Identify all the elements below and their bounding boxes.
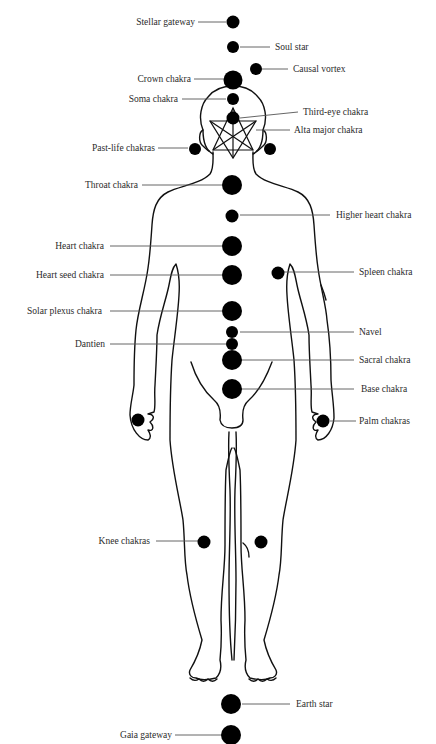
dot-palm-right — [317, 415, 330, 428]
label-causal-vortex: Causal vortex — [293, 63, 346, 75]
label-dantien: Dantien — [75, 338, 105, 350]
dot-palm-left — [132, 414, 145, 427]
dot-gaia-gateway — [221, 725, 241, 744]
dot-solar-plexus — [222, 301, 242, 321]
dot-causal-vortex — [250, 63, 262, 75]
dot-higher-heart — [226, 210, 239, 223]
label-solar-plexus-chakra: Solar plexus chakra — [27, 305, 102, 317]
label-alta-major-chakra: Alta major chakra — [294, 124, 363, 136]
label-sacral-chakra: Sacral chakra — [359, 354, 410, 366]
label-earth-star: Earth star — [296, 698, 333, 710]
dot-soma — [227, 93, 239, 105]
label-throat-chakra: Throat chakra — [85, 179, 138, 191]
label-third-eye-chakra: Third-eye chakra — [303, 106, 368, 118]
label-higher-heart-chakra: Higher heart chakra — [336, 209, 411, 221]
label-crown-chakra: Crown chakra — [137, 73, 191, 85]
label-soul-star: Soul star — [275, 41, 309, 53]
label-navel: Navel — [359, 326, 382, 338]
dot-past-life-left — [189, 143, 201, 155]
label-palm-chakras: Palm chakras — [359, 415, 410, 427]
label-spleen-chakra: Spleen chakra — [359, 266, 413, 278]
label-soma-chakra: Soma chakra — [129, 93, 178, 105]
label-heart-seed-chakra: Heart seed chakra — [36, 269, 104, 281]
dot-heart — [222, 236, 242, 256]
label-past-life-chakras: Past-life chakras — [92, 142, 155, 154]
dot-knee-left — [198, 536, 211, 549]
label-knee-chakras: Knee chakras — [99, 535, 150, 547]
dot-spleen — [272, 267, 285, 280]
label-heart-chakra: Heart chakra — [55, 240, 104, 252]
dot-dantien — [226, 338, 238, 350]
dot-base — [222, 379, 242, 399]
chakra-body-diagram — [0, 0, 436, 744]
dot-sacral — [222, 350, 242, 370]
dot-throat — [222, 175, 242, 195]
dot-heart-seed — [222, 265, 242, 285]
dot-crown — [224, 71, 243, 90]
dot-third-eye — [227, 112, 240, 125]
dot-soul-star — [227, 41, 239, 53]
label-gaia-gateway: Gaia gateway — [120, 729, 172, 741]
label-stellar-gateway: Stellar gateway — [136, 16, 195, 28]
dot-stellar-gateway — [227, 16, 240, 29]
label-base-chakra: Base chakra — [361, 383, 407, 395]
dot-earth-star — [221, 694, 241, 714]
dot-navel — [226, 326, 238, 338]
dot-past-life-right — [264, 143, 276, 155]
dot-knee-right — [255, 536, 268, 549]
